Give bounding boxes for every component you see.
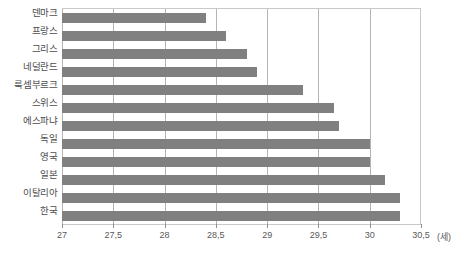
bar: [62, 139, 370, 149]
category-label: 이탈리아: [0, 188, 58, 198]
bar: [62, 175, 385, 185]
tick-label: 29,5: [310, 230, 328, 240]
category-label: 프랑스: [0, 26, 58, 36]
category-label: 네덜란드: [0, 62, 58, 72]
gridline: [62, 9, 63, 224]
gridline: [216, 9, 217, 224]
axis-unit-label: (세): [437, 230, 451, 243]
category-label: 룩셈부르크: [0, 80, 58, 90]
tick-mark: [165, 224, 166, 228]
tick-mark: [370, 224, 371, 228]
category-label: 일본: [0, 170, 58, 180]
gridline: [318, 9, 319, 224]
tick-label: 30,5: [412, 230, 430, 240]
bar: [62, 31, 226, 41]
bar: [62, 211, 400, 221]
plot-area: [62, 8, 421, 224]
tick-mark: [318, 224, 319, 228]
tick-label: 30: [365, 230, 375, 240]
tick-mark: [421, 224, 422, 228]
category-label: 영국: [0, 152, 58, 162]
category-label: 그리스: [0, 44, 58, 54]
axis-baseline: [62, 224, 421, 225]
tick-mark: [62, 224, 63, 228]
bar: [62, 13, 206, 23]
category-label: 한국: [0, 206, 58, 216]
tick-mark: [267, 224, 268, 228]
bar: [62, 49, 247, 59]
bar: [62, 157, 370, 167]
bar: [62, 193, 400, 203]
value-axis: 2727,52828,52929,53030,5 (세): [62, 224, 421, 248]
gridline: [113, 9, 114, 224]
tick-label: 27,5: [105, 230, 123, 240]
bar-chart: 덴마크 프랑스 그리스 네덜란드 룩셈부르크 스위스 에스파냐 독일 영국 일본…: [0, 0, 466, 256]
bar: [62, 67, 257, 77]
bar: [62, 85, 303, 95]
bar: [62, 121, 339, 131]
tick-label: 28: [160, 230, 170, 240]
gridline: [165, 9, 166, 224]
category-label: 스위스: [0, 98, 58, 108]
category-label: 독일: [0, 134, 58, 144]
category-axis: 덴마크 프랑스 그리스 네덜란드 룩셈부르크 스위스 에스파냐 독일 영국 일본…: [0, 8, 58, 224]
gridline: [370, 9, 371, 224]
tick-mark: [216, 224, 217, 228]
bar: [62, 103, 334, 113]
tick-label: 29: [262, 230, 272, 240]
category-label: 덴마크: [0, 8, 58, 18]
tick-label: 28,5: [207, 230, 225, 240]
gridline: [267, 9, 268, 224]
tick-label: 27: [57, 230, 67, 240]
tick-mark: [113, 224, 114, 228]
category-label: 에스파냐: [0, 116, 58, 126]
